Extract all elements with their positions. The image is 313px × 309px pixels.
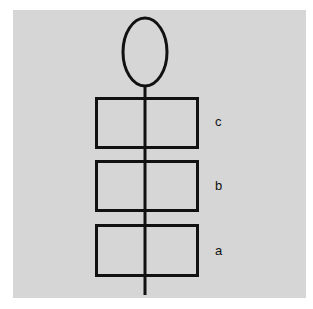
head-ellipse [123, 18, 167, 86]
label-c: c [215, 114, 222, 129]
label-b: b [215, 178, 222, 193]
stacked-boxes-diagram [0, 0, 313, 309]
box-c [97, 99, 198, 148]
box-b [97, 162, 198, 211]
box-a [97, 226, 198, 276]
label-a: a [215, 243, 222, 258]
